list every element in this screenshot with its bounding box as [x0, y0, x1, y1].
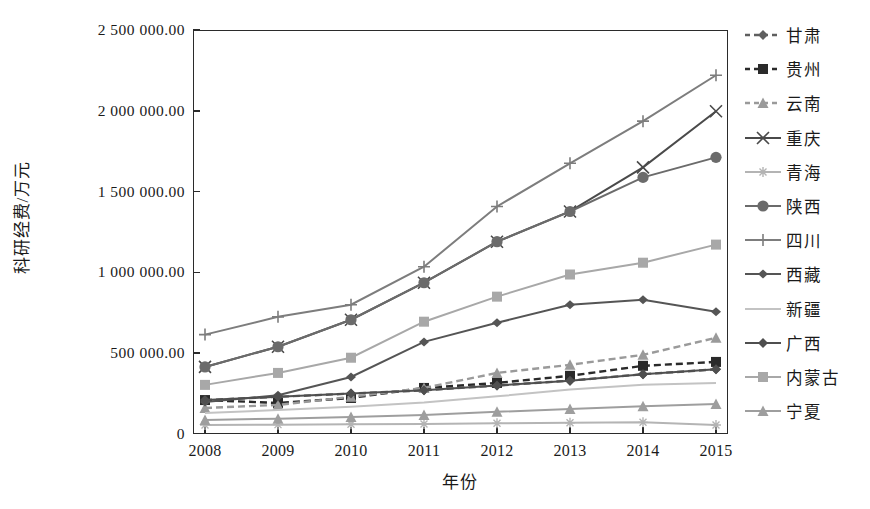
legend-swatch-diamond-icon	[744, 334, 782, 352]
legend-swatch-diamond-icon	[744, 26, 782, 44]
legend-label: 四川	[786, 228, 822, 252]
x-tick-mark	[350, 427, 352, 434]
x-axis-title: 年份	[442, 468, 478, 493]
chart-root: 0500 000.001 000 000.001 500 000.002 000…	[0, 0, 870, 509]
legend-item-4[interactable]: 青海	[744, 155, 868, 189]
legend-swatch-star-icon	[744, 163, 782, 181]
legend-item-3[interactable]: 重庆	[744, 121, 868, 155]
legend-swatch-square-icon	[744, 368, 782, 386]
legend-item-10[interactable]: 内蒙古	[744, 360, 868, 394]
legend-label: 广西	[786, 331, 822, 355]
legend-item-5[interactable]: 陕西	[744, 189, 868, 223]
legend-swatch-none-icon	[744, 300, 782, 318]
x-tick-label: 2010	[334, 442, 367, 460]
y-tick-label: 0	[20, 425, 185, 443]
legend-swatch-x-icon	[744, 129, 782, 147]
x-tick-mark	[642, 427, 644, 434]
x-tick-label: 2009	[261, 442, 294, 460]
legend-item-2[interactable]: 云南	[744, 86, 868, 120]
x-tick-label: 2013	[553, 442, 586, 460]
legend-label: 西藏	[786, 262, 822, 286]
legend-label: 甘肃	[786, 23, 822, 47]
legend-label: 新疆	[786, 297, 822, 321]
x-tick-label: 2012	[480, 442, 513, 460]
y-tick-label: 500 000.00	[20, 344, 185, 362]
x-tick-mark	[496, 427, 498, 434]
x-tick-mark	[277, 427, 279, 434]
legend-swatch-plus-icon	[744, 231, 782, 249]
x-tick-label: 2011	[408, 442, 441, 460]
y-tick-label: 1 500 000.00	[20, 183, 185, 201]
legend-item-7[interactable]: 西藏	[744, 257, 868, 291]
legend-item-11[interactable]: 宁夏	[744, 394, 868, 428]
y-axis-title: 科研经费/万元	[8, 128, 33, 308]
y-tick-mark	[193, 352, 200, 354]
legend-label: 宁夏	[786, 399, 822, 423]
legend-swatch-dot-icon	[744, 265, 782, 283]
legend-item-0[interactable]: 甘肃	[744, 18, 868, 52]
legend-item-6[interactable]: 四川	[744, 223, 868, 257]
legend-item-8[interactable]: 新疆	[744, 292, 868, 326]
legend-label: 内蒙古	[786, 365, 840, 389]
y-tick-mark	[193, 110, 200, 112]
x-tick-mark	[423, 427, 425, 434]
x-tick-label: 2014	[626, 442, 659, 460]
legend-swatch-triangle-icon	[744, 402, 782, 420]
x-tick-mark	[204, 427, 206, 434]
legend-label: 重庆	[786, 126, 822, 150]
chart-legend: 甘肃贵州云南重庆青海陕西四川西藏新疆广西内蒙古宁夏	[744, 18, 868, 428]
legend-label: 贵州	[786, 57, 822, 81]
legend-label: 青海	[786, 160, 822, 184]
y-tick-label: 1 000 000.00	[20, 263, 185, 281]
x-tick-label: 2008	[188, 442, 221, 460]
x-tick-mark	[715, 427, 717, 434]
x-tick-label: 2015	[699, 442, 732, 460]
plot-area	[193, 30, 728, 434]
legend-swatch-square-icon	[744, 60, 782, 78]
legend-label: 云南	[786, 91, 822, 115]
y-tick-label: 2 500 000.00	[20, 21, 185, 39]
y-tick-mark	[193, 272, 200, 274]
legend-swatch-triangle-icon	[744, 94, 782, 112]
legend-swatch-circle-icon	[744, 197, 782, 215]
x-tick-mark	[569, 427, 571, 434]
y-tick-mark	[193, 191, 200, 193]
legend-item-1[interactable]: 贵州	[744, 52, 868, 86]
legend-label: 陕西	[786, 194, 822, 218]
legend-item-9[interactable]: 广西	[744, 326, 868, 360]
y-tick-mark	[193, 29, 200, 31]
y-tick-label: 2 000 000.00	[20, 102, 185, 120]
